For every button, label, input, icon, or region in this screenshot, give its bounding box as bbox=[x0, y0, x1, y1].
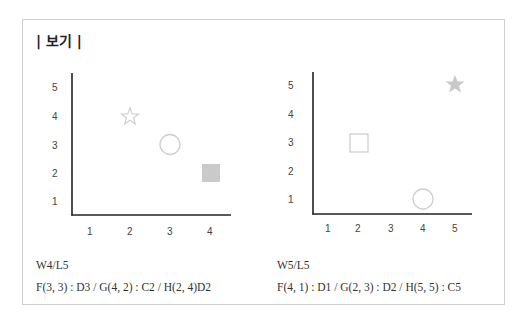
right-x-tick: 2 bbox=[355, 223, 361, 234]
left-caption-score: W4/L5 bbox=[36, 259, 69, 271]
right-scatter-chart: 5 4 3 2 1 1 2 3 4 5 bbox=[0, 0, 525, 322]
right-y-tick: 2 bbox=[288, 166, 294, 177]
right-caption-score: W5/L5 bbox=[277, 259, 310, 271]
left-caption-coords: F(3, 3) : D3 / G(4, 2) : C2 / H(2, 4)D2 bbox=[36, 281, 211, 293]
right-x-tick: 1 bbox=[325, 223, 331, 234]
right-x-tick: 3 bbox=[388, 223, 394, 234]
circle-outline-icon bbox=[413, 189, 433, 209]
right-caption-coords: F(4, 1) : D1 / G(2, 3) : D2 / H(5, 5) : … bbox=[277, 281, 461, 293]
square-outline-icon bbox=[350, 134, 368, 152]
right-y-tick: 3 bbox=[288, 137, 294, 148]
right-x-tick: 5 bbox=[452, 223, 458, 234]
right-y-tick: 4 bbox=[288, 109, 294, 120]
right-y-tick: 5 bbox=[288, 80, 294, 91]
right-x-tick: 4 bbox=[420, 223, 426, 234]
right-y-tick: 1 bbox=[288, 194, 294, 205]
star-filled-icon bbox=[446, 75, 465, 93]
